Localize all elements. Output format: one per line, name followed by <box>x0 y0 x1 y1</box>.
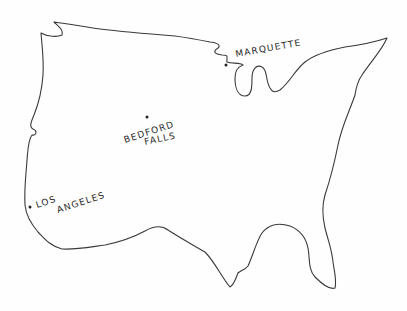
bedford-falls-dot <box>146 116 149 119</box>
los-angeles-label-line1: LOS <box>35 194 58 210</box>
marquette-label: MARQUETTE <box>235 38 303 59</box>
us-map-svg: MARQUETTE BEDFORD FALLS LOS ANGELES <box>0 0 407 311</box>
los-angeles-dot <box>29 206 32 209</box>
map: MARQUETTE BEDFORD FALLS LOS ANGELES <box>0 0 407 311</box>
los-angeles-label-line2: ANGELES <box>56 190 107 215</box>
us-outline <box>25 22 387 288</box>
marquette-dot <box>225 64 228 67</box>
